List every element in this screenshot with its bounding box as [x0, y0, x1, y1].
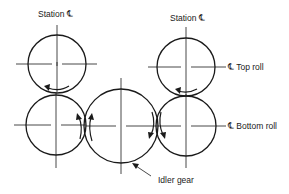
- gear-train-diagram: Station ℄ Station ℄ ℄ Top roll: [0, 0, 289, 194]
- bottom-roll-left: [14, 92, 86, 168]
- idler-gear: [84, 78, 158, 174]
- top-roll-centerline-label: ℄ Top roll: [227, 62, 264, 72]
- rotation-arrow-top-left-icon: [44, 84, 69, 91]
- station-centerline-label-left: Station ℄: [38, 9, 73, 19]
- idler-gear-label: Idler gear: [158, 175, 194, 185]
- station-centerline-label-right: Station ℄: [170, 13, 205, 23]
- bottom-roll-centerline-label: ℄ Bottom roll: [227, 121, 277, 131]
- idler-gear-leader: [132, 163, 151, 176]
- top-roll-right: [148, 27, 226, 96]
- top-roll-left: [16, 25, 97, 93]
- bottom-roll-right: [156, 94, 226, 168]
